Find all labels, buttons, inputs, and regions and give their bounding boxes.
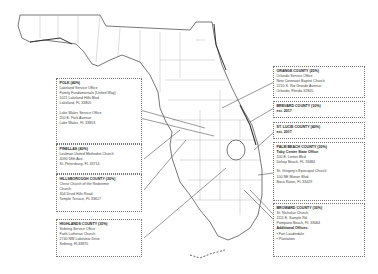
- broward-county-box: BROWARD COUNTY (30%) St. Nicholas Church…: [273, 203, 365, 257]
- pinellas-county-box: PINELLAS (40%) Lealman United Methodist …: [56, 144, 142, 174]
- st-lucie-established: est. 2017: [277, 130, 362, 135]
- hillsborough-county-box: HILLSBOROUGH COUNTY (30%) Christ Church …: [56, 174, 142, 212]
- lake-wales-office-city: Lake Wales, FL 33853: [60, 121, 139, 126]
- brevard-county-box: BREVARD COUNTY (10%) est. 2017: [273, 101, 365, 118]
- highlands-county-box: HIGHLANDS COUNTY (30%) Sebring Service O…: [56, 219, 142, 257]
- orange-county-box: ORANGE COUNTY (25%) Orlando Service Offi…: [273, 66, 365, 98]
- additional-office-item: • Plantation: [277, 237, 362, 242]
- palm-beach-county-box: PALM BEACH COUNTY (30%) Toby Center Stat…: [273, 142, 365, 201]
- florida-keys: [190, 250, 225, 258]
- boca-office-line: Boca Raton, FL 33429: [277, 180, 362, 185]
- brevard-established: est. 2017: [277, 109, 362, 114]
- lake-okeechobee: [227, 140, 245, 160]
- polk-county-box: POLK (40%) Lakeland Service Office Famil…: [56, 78, 142, 144]
- hillsborough-line: Temple Terrace, FL 33617: [60, 197, 139, 202]
- st-lucie-county-box: ST. LUCIE COUNTY (40%) est. 2017: [273, 122, 365, 139]
- pinellas-line: St. Petersburg, FL 33714: [60, 162, 139, 167]
- orange-line: Orlando, Florida 32805: [277, 89, 362, 94]
- highlands-line: Sebring, FL33870: [60, 242, 139, 247]
